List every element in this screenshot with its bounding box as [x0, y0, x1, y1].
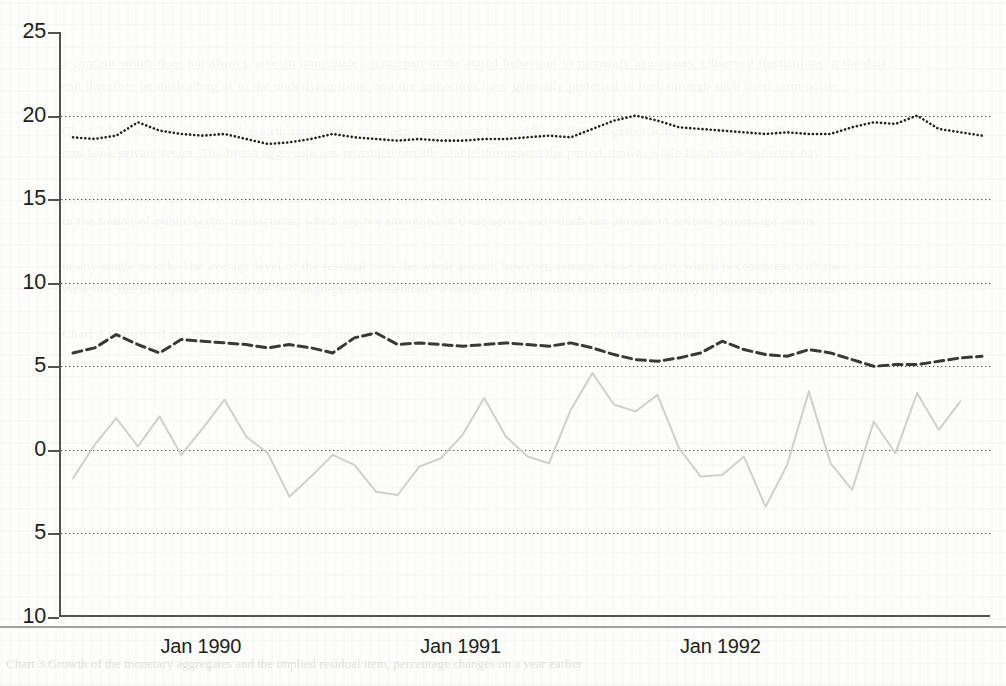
y-tick-mark [48, 116, 59, 118]
y-tick-label: 5 [4, 522, 46, 544]
y-tick-mark [48, 366, 59, 368]
x-tick-label: Jan 1990 [160, 636, 241, 656]
figure-caption: Chart 3 Growth of the monetary aggregate… [6, 656, 1000, 672]
y-tick-label: 10 [4, 606, 46, 628]
y-tick-mark [48, 283, 59, 285]
y-tick-label: 20 [4, 105, 46, 127]
chart-canvas [61, 32, 992, 617]
y-tick-label: 15 [4, 188, 46, 210]
y-tick-label: 25 [4, 21, 46, 43]
x-tick-label: Jan 1991 [420, 636, 501, 656]
y-tick-mark [48, 450, 59, 452]
x-tick-label: Jan 1992 [680, 636, 761, 656]
figure-bottom-rule [0, 626, 1006, 628]
y-tick-mark [48, 32, 59, 34]
y-tick-label: 10 [4, 272, 46, 294]
y-tick-mark [48, 533, 59, 535]
plot-area [59, 32, 990, 617]
y-tick-label: 0 [4, 439, 46, 461]
figure-page: a concept which does not always have an … [0, 0, 1006, 686]
y-tick-mark [48, 199, 59, 201]
y-tick-label: 5 [4, 355, 46, 377]
y-tick-mark [48, 617, 59, 619]
